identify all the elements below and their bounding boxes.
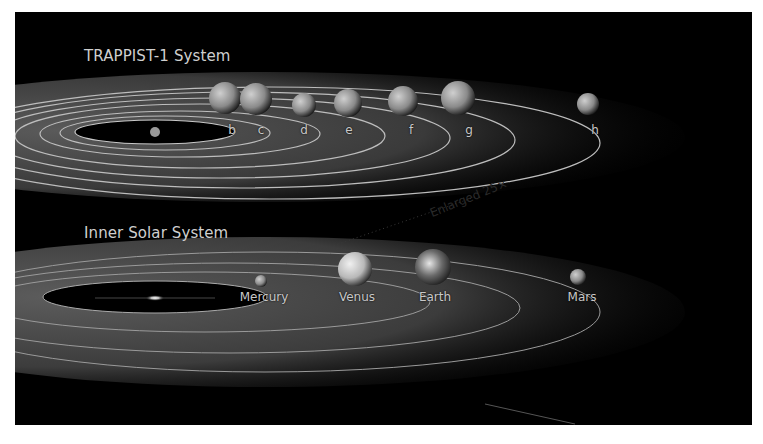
trappist-star [150,127,160,137]
planet-earth [415,249,451,285]
planet-f [388,86,418,116]
planet-e [334,89,362,117]
label-mars: Mars [568,290,597,304]
label-g: g [465,123,473,137]
label-d: d [300,123,308,137]
solar-title: Inner Solar System [84,224,228,242]
label-earth: Earth [419,290,451,304]
trappist-title: TRAPPIST-1 System [84,47,230,65]
sun [145,295,165,301]
label-h: h [591,123,599,137]
diagram-panel: TRAPPIST-1 System Inner Solar System b c… [15,12,752,425]
orbit-diagram [15,12,752,425]
planet-b [209,82,241,114]
planet-h [577,93,599,115]
label-mercury: Mercury [240,290,289,304]
label-venus: Venus [339,290,375,304]
label-b: b [228,123,236,137]
planet-c [240,83,272,115]
label-f: f [409,123,413,137]
planet-mars [570,269,586,285]
planet-d [292,93,316,117]
planet-g [441,81,475,115]
planet-mercury [255,275,267,287]
label-e: e [345,123,352,137]
planet-venus [338,252,372,286]
label-c: c [258,123,265,137]
